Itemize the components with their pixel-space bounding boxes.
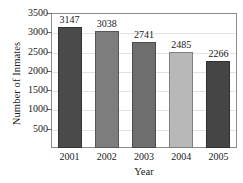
bar-series: 31473038274124852266 (51, 13, 237, 148)
bar: 3038 (95, 13, 119, 148)
bar-rect (95, 31, 119, 148)
bar: 2485 (169, 13, 193, 148)
y-tick-label: 500 (8, 124, 48, 134)
bar-rect (169, 52, 193, 148)
bar: 2266 (206, 13, 230, 148)
x-tick-label: 2005 (195, 151, 241, 162)
y-tick-label: 3500 (8, 8, 48, 18)
bar-rect (206, 61, 230, 148)
y-tick-label: 3000 (8, 27, 48, 37)
bar-value-label: 2266 (195, 48, 241, 59)
y-tick-label: 2000 (8, 66, 48, 76)
bar-rect (132, 42, 156, 148)
bar-chart: Number of Inmates 5001000150020002500300… (0, 0, 243, 183)
y-tick-label: 2500 (8, 47, 48, 57)
bar: 3147 (58, 13, 82, 148)
y-tick-label: 1500 (8, 85, 48, 95)
bar-rect (58, 27, 82, 148)
bar: 2741 (132, 13, 156, 148)
y-tick-label: 1000 (8, 104, 48, 114)
bar-value-label: 3038 (84, 18, 130, 29)
x-axis-title: Year (51, 166, 237, 177)
